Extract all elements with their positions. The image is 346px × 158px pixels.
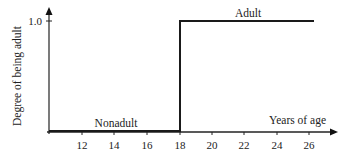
x-tick-labels: 12 14 16 18 20 22 24 26 [77, 139, 316, 151]
x-tick-label: 12 [77, 139, 88, 151]
adult-label: Adult [235, 7, 262, 19]
x-tick-label: 18 [175, 139, 187, 151]
y-axis-arrow-icon [46, 7, 53, 15]
x-tick-label: 24 [272, 139, 284, 151]
x-tick-label: 14 [109, 139, 121, 151]
y-tick-label: 1.0 [28, 15, 42, 27]
x-tick-label: 20 [207, 139, 219, 151]
x-tick-label: 22 [239, 139, 250, 151]
x-tick-label: 26 [304, 139, 316, 151]
chart: 1.0 Degree of being adult 12 14 16 18 20… [0, 0, 346, 158]
x-axis-arrow-icon [330, 129, 338, 136]
nonadult-label: Nonadult [95, 117, 139, 129]
y-axis-label: Degree of being adult [11, 25, 24, 126]
x-tick-label: 16 [142, 139, 154, 151]
x-axis-label: Years of age [269, 114, 326, 127]
